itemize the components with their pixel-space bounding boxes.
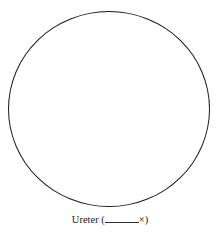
caption-label: Ureter ( [72,214,105,225]
caption-suffix: ×) [139,214,148,225]
figure-caption: Ureter (×) [0,213,220,225]
microscope-field-circle [8,11,210,207]
magnification-blank [105,213,139,223]
